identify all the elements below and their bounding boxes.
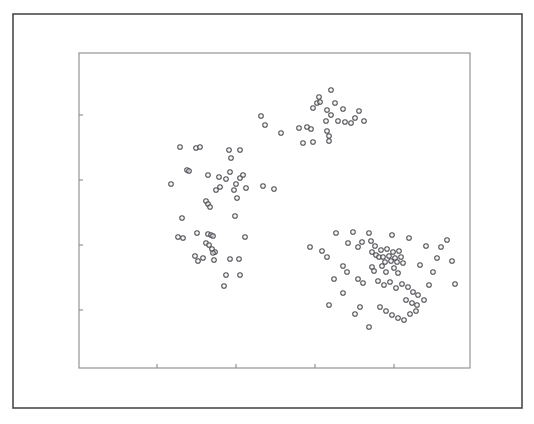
scatter-plot-canvas xyxy=(0,0,534,424)
data-point xyxy=(334,231,339,236)
data-point xyxy=(408,312,413,317)
data-point xyxy=(376,279,381,284)
data-point xyxy=(181,236,186,241)
data-point xyxy=(343,120,348,125)
data-point xyxy=(228,257,233,262)
data-point xyxy=(222,284,227,289)
data-point xyxy=(414,309,419,314)
data-point xyxy=(176,235,181,240)
data-point xyxy=(394,286,399,291)
data-point xyxy=(234,182,239,187)
data-point xyxy=(384,309,389,314)
data-point xyxy=(353,312,358,317)
data-point xyxy=(318,100,323,105)
data-point xyxy=(362,119,367,124)
data-point xyxy=(279,131,284,136)
data-point xyxy=(244,186,249,191)
data-point xyxy=(311,106,316,111)
data-point xyxy=(297,126,302,131)
data-point xyxy=(435,256,440,261)
data-point xyxy=(357,109,362,114)
data-point xyxy=(345,270,350,275)
data-point xyxy=(211,234,216,239)
data-point xyxy=(349,121,354,126)
data-point xyxy=(367,231,372,236)
data-point xyxy=(367,325,372,330)
plot-background xyxy=(0,0,534,424)
data-point xyxy=(384,270,389,275)
data-point xyxy=(201,256,206,261)
data-point xyxy=(431,270,436,275)
data-point xyxy=(333,101,338,106)
data-point xyxy=(453,282,458,287)
data-point xyxy=(380,264,385,269)
data-point xyxy=(324,119,329,124)
data-point xyxy=(388,280,393,285)
data-point xyxy=(237,257,242,262)
data-point xyxy=(378,305,383,310)
data-point xyxy=(238,273,243,278)
data-point xyxy=(407,236,412,241)
data-point xyxy=(404,298,409,303)
data-point xyxy=(346,241,351,246)
data-point xyxy=(358,305,363,310)
data-point xyxy=(238,148,243,153)
data-point xyxy=(351,230,356,235)
data-point xyxy=(325,129,330,134)
data-point xyxy=(353,116,358,121)
data-point xyxy=(356,245,361,250)
data-point xyxy=(232,188,237,193)
data-point xyxy=(329,113,334,118)
data-point xyxy=(187,169,192,174)
data-point xyxy=(211,251,216,256)
data-point xyxy=(385,247,390,252)
data-point xyxy=(391,250,396,255)
data-point xyxy=(263,123,268,128)
data-point xyxy=(301,141,306,146)
data-point xyxy=(415,303,420,308)
data-point xyxy=(311,140,316,145)
data-point xyxy=(395,260,400,265)
data-point xyxy=(390,233,395,238)
data-point xyxy=(332,277,337,282)
data-point xyxy=(445,238,450,243)
data-point xyxy=(228,170,233,175)
data-point xyxy=(356,277,361,282)
data-point xyxy=(381,255,386,260)
data-point xyxy=(396,271,401,276)
data-point xyxy=(411,290,416,295)
data-point xyxy=(206,173,211,178)
data-point xyxy=(208,205,213,210)
data-point xyxy=(450,259,455,264)
data-point xyxy=(325,108,330,113)
data-point xyxy=(212,258,217,263)
scatter-plot-figure xyxy=(0,0,534,424)
data-point xyxy=(424,244,429,249)
data-point xyxy=(401,261,406,266)
data-point xyxy=(396,316,401,321)
data-point xyxy=(341,264,346,269)
data-point xyxy=(178,145,183,150)
data-point xyxy=(233,214,238,219)
data-point xyxy=(195,231,200,236)
data-point xyxy=(329,88,334,93)
data-point xyxy=(325,255,330,260)
data-point xyxy=(217,175,222,180)
data-point xyxy=(308,245,313,250)
data-point xyxy=(392,266,397,271)
data-point xyxy=(400,282,405,287)
data-point xyxy=(410,301,415,306)
data-point xyxy=(224,177,229,182)
data-point xyxy=(259,114,264,119)
data-point xyxy=(229,156,234,161)
data-point xyxy=(341,107,346,112)
data-point xyxy=(418,263,423,268)
data-point xyxy=(227,148,232,153)
data-point xyxy=(327,139,332,144)
data-point xyxy=(193,254,198,259)
data-point xyxy=(327,303,332,308)
data-point xyxy=(406,285,411,290)
data-point xyxy=(327,134,332,139)
data-point xyxy=(399,255,404,260)
data-point xyxy=(397,249,402,254)
